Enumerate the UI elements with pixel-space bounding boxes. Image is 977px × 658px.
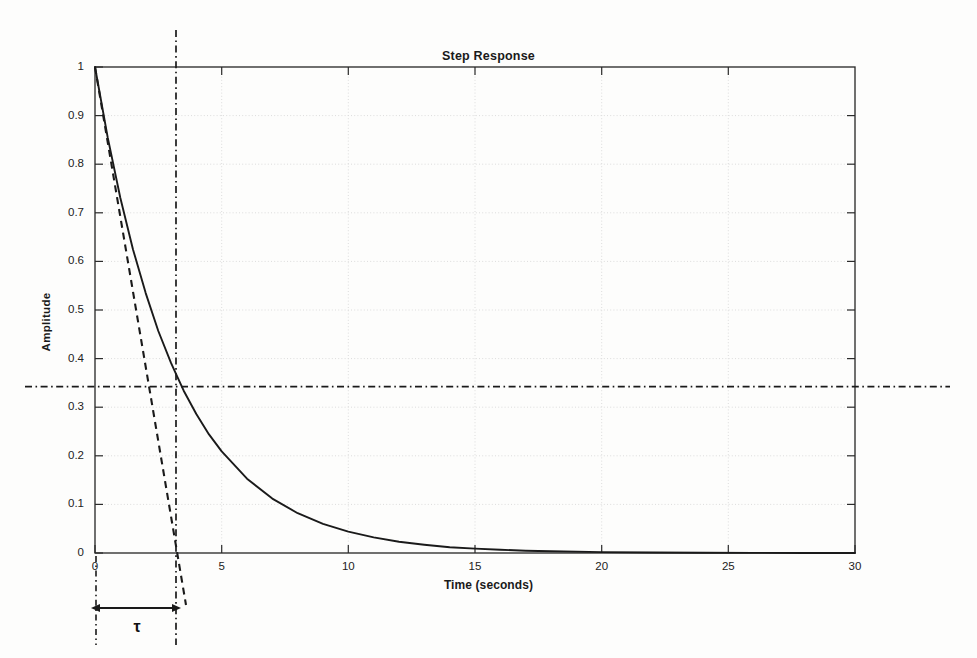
step-response-figure: Step Response Time (seconds) Amplitude 1… [0, 0, 977, 658]
y-tick-label: 0.7 [40, 206, 84, 218]
x-tick-label: 25 [708, 560, 748, 572]
x-tick-label: 5 [202, 560, 242, 572]
x-tick-label: 15 [455, 560, 495, 572]
y-tick-label: 0.2 [40, 449, 84, 461]
x-tick-label: 0 [75, 560, 115, 572]
y-tick-label: 0.4 [40, 352, 84, 364]
initial-tangent-line [95, 67, 186, 605]
y-tick-label: 0.9 [40, 109, 84, 121]
x-tick-label: 20 [582, 560, 622, 572]
tau-annotation-label: τ [117, 618, 157, 636]
x-axis-label: Time (seconds) [0, 578, 977, 592]
x-tick-label: 30 [835, 560, 875, 572]
chart-title: Step Response [0, 49, 977, 63]
y-tick-label: 0 [40, 546, 84, 558]
y-tick-label: 0.5 [40, 303, 84, 315]
x-tick-label: 10 [328, 560, 368, 572]
y-tick-label: 0.8 [40, 157, 84, 169]
y-tick-label: 0.6 [40, 254, 84, 266]
y-tick-label: 0.1 [40, 497, 84, 509]
y-axis-label: Amplitude [40, 262, 52, 382]
grid-lines [95, 67, 855, 553]
y-tick-label: 0.3 [40, 400, 84, 412]
y-tick-label: 1 [40, 60, 84, 72]
